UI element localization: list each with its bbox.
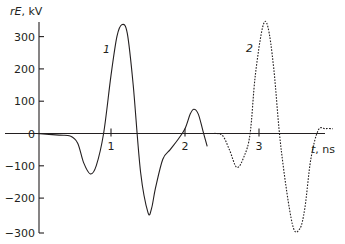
x-tick-label: 2 [182,140,189,153]
y-axis-unit: , kV [21,5,42,18]
y-tick-label: −200 [5,192,35,205]
curve-2 [211,21,333,232]
x-ticks: 123 [108,129,263,153]
y-axis-var: rE [10,5,22,18]
x-axis-title: t, ns [311,143,335,156]
curve-2-label: 2 [246,42,253,55]
x-axis-unit: , ns [315,143,335,156]
chart: 3002001000−100−200−300 123 rE, kV t, ns … [0,0,345,244]
curve-1 [37,24,207,215]
y-tick-label: 200 [14,63,35,76]
x-tick-label: 1 [108,140,115,153]
curve-1-label: 1 [103,43,110,56]
x-tick-label: 3 [256,140,263,153]
y-tick-label: 100 [14,95,35,108]
y-tick-label: 300 [14,31,35,44]
y-tick-label: −100 [5,160,35,173]
y-axis-title: rE, kV [10,5,43,18]
y-tick-label: −300 [5,227,35,240]
y-tick-label: 0 [28,128,35,141]
y-ticks: 3002001000−100−200−300 [5,31,44,240]
